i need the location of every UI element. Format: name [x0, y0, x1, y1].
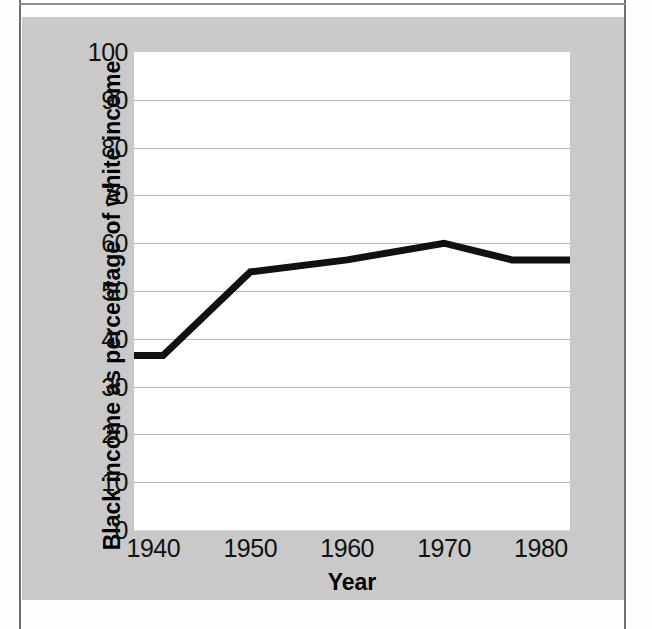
page-border-left: [19, 0, 21, 629]
page-border-right: [624, 0, 626, 629]
x-axis-tick-labels: 19401950196019701980: [134, 536, 570, 570]
y-tick-label-20: 20: [82, 422, 128, 447]
y-tick-label-10: 10: [82, 470, 128, 495]
chart-figure-panel: Black income as percentage of white inco…: [22, 17, 624, 600]
y-tick-label-100: 100: [82, 40, 128, 65]
x-tick-label-1960: 1960: [302, 536, 392, 561]
page-frame: Black income as percentage of white inco…: [0, 0, 652, 629]
x-tick-label-1970: 1970: [399, 536, 489, 561]
x-tick-label-1980: 1980: [496, 536, 586, 561]
y-tick-label-80: 80: [82, 136, 128, 161]
gridline-0: [134, 530, 570, 531]
y-tick-label-40: 40: [82, 327, 128, 352]
data-line-svg: [134, 52, 570, 530]
y-tick-label-70: 70: [82, 183, 128, 208]
x-tick-label-1940: 1940: [108, 536, 198, 561]
y-tick-label-30: 30: [82, 375, 128, 400]
page-border-top: [19, 3, 626, 5]
y-tick-label-50: 50: [82, 279, 128, 304]
x-axis-title: Year: [134, 569, 570, 596]
x-tick-label-1950: 1950: [205, 536, 295, 561]
plot-area: [134, 52, 570, 530]
y-tick-label-90: 90: [82, 88, 128, 113]
y-tick-label-60: 60: [82, 231, 128, 256]
data-series-line: [134, 243, 570, 355]
y-axis-tick-labels: 0102030405060708090100: [66, 52, 128, 530]
